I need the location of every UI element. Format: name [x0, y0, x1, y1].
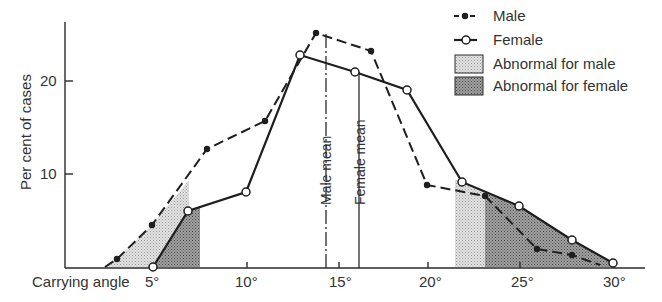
female-point	[609, 259, 617, 267]
x-axis-label: Carrying angle	[32, 273, 130, 290]
open-dot-icon	[462, 36, 470, 44]
male-point	[569, 252, 575, 258]
abnormal-female-right-region	[485, 193, 613, 267]
y-tick-label-10: 10	[40, 165, 57, 182]
y-tick-label-20: 20	[40, 72, 57, 89]
legend-label-female: Female	[493, 31, 543, 48]
x-tick-label-10: 10°	[235, 273, 258, 290]
x-tick-label-20: 20°	[419, 273, 442, 290]
abnormal-male-right-region	[455, 180, 485, 267]
male-point	[482, 193, 488, 199]
female-point	[242, 188, 250, 196]
male-mean-label: Male mean	[318, 136, 334, 205]
legend-item-female: Female	[454, 31, 543, 48]
legend-item-male: Male	[454, 7, 526, 24]
female-point	[296, 51, 304, 59]
female-point	[568, 236, 576, 244]
carrying-angle-chart: Male mean Female mean 20 10 Per cent of …	[0, 0, 662, 302]
legend-label-male: Male	[493, 7, 526, 24]
male-point	[424, 182, 430, 188]
female-point	[184, 207, 192, 215]
legend-item-abnormal-male: Abnormal for male	[455, 55, 616, 73]
female-point	[351, 68, 359, 76]
female-mean-label: Female mean	[352, 119, 368, 205]
x-tick-label-25: 25°	[511, 273, 534, 290]
dark-stipple-swatch-icon	[455, 77, 483, 95]
female-point	[149, 263, 157, 271]
x-tick-label-30: 30°	[603, 273, 626, 290]
filled-dot-icon	[462, 13, 468, 19]
legend-label-abnormal-male: Abnormal for male	[493, 55, 616, 72]
legend-item-abnormal-female: Abnormal for female	[455, 77, 628, 95]
female-point	[515, 202, 523, 210]
male-point	[262, 118, 268, 124]
male-point	[368, 48, 374, 54]
x-tick-label-5: 5°	[145, 273, 159, 290]
male-point	[114, 256, 120, 262]
male-point	[313, 30, 319, 36]
male-point	[204, 146, 210, 152]
y-axis-label: Per cent of cases	[17, 74, 34, 190]
female-point	[403, 86, 411, 94]
light-stipple-swatch-icon	[455, 55, 483, 73]
legend: Male Female Abnormal for male Abnormal f…	[454, 7, 628, 95]
male-point	[534, 246, 540, 252]
x-tick-label-15: 15°	[329, 273, 352, 290]
female-point	[458, 178, 466, 186]
legend-label-abnormal-female: Abnormal for female	[493, 77, 628, 94]
male-point	[149, 222, 155, 228]
